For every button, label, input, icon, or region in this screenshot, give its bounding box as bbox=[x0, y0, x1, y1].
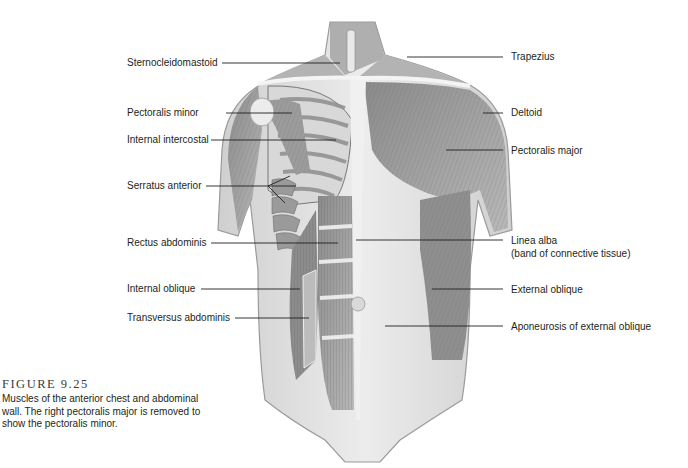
label-trapezius: Trapezius bbox=[511, 51, 555, 63]
label-serratus-anterior: Serratus anterior bbox=[127, 180, 201, 192]
figure-caption: FIGURE 9.25 Muscles of the anterior ches… bbox=[2, 377, 202, 431]
anatomy-figure: Sternocleidomastoid Pectoralis minor Int… bbox=[0, 0, 688, 468]
label-linea-alba-subtext: (band of connective tissue) bbox=[511, 248, 631, 260]
label-rectus-abdominis: Rectus abdominis bbox=[127, 237, 206, 249]
label-linea-alba: Linea alba bbox=[511, 235, 557, 247]
label-internal-oblique: Internal oblique bbox=[127, 283, 195, 295]
label-internal-intercostal: Internal intercostal bbox=[127, 134, 209, 146]
label-deltoid: Deltoid bbox=[511, 107, 542, 119]
figure-caption-text: Muscles of the anterior chest and abdomi… bbox=[2, 393, 202, 431]
label-pectoralis-major: Pectoralis major bbox=[511, 145, 583, 157]
label-sternocleidomastoid: Sternocleidomastoid bbox=[127, 57, 218, 69]
figure-number: FIGURE 9.25 bbox=[2, 377, 202, 391]
label-aponeurosis-external-oblique: Aponeurosis of external oblique bbox=[511, 321, 651, 333]
label-pectoralis-minor: Pectoralis minor bbox=[127, 107, 199, 119]
label-transversus-abdominis: Transversus abdominis bbox=[127, 312, 230, 324]
label-external-oblique: External oblique bbox=[511, 284, 583, 296]
